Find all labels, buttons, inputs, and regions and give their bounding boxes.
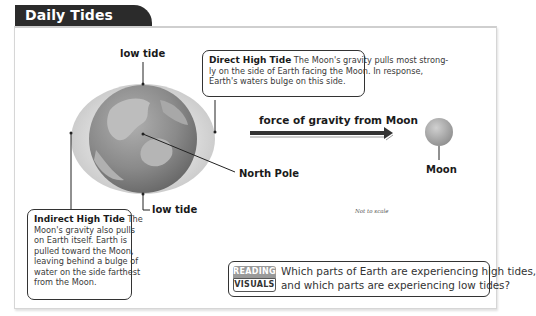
indirect-title: Indirect High Tide [34,214,125,224]
north-pole-label: North Pole [239,168,299,179]
low-tide-bottom-leader [143,194,150,210]
reading-visuals-question: Which parts of Earth are experiencing hi… [281,265,536,292]
gravity-arrow [250,127,393,140]
force-label: force of gravity from Moon [259,114,418,126]
reading-visuals-badge: READING VISUALS [233,266,276,292]
moon-label: Moon [426,164,457,175]
low-tide-top-label: low tide [120,48,165,59]
earth-globe [89,85,197,193]
low-tide-bottom-label: low tide [152,204,197,215]
direct-title: Direct High Tide [209,55,291,65]
indirect-high-tide-callout: Indirect High Tide The Moon's gravity al… [27,209,132,300]
direct-high-tide-callout: Direct High Tide The Moon's gravity pull… [202,50,365,97]
reading-visuals-box: READING VISUALS Which parts of Earth are… [228,261,490,297]
not-to-scale-note: Not to scale [355,208,389,214]
moon-sphere [425,118,453,146]
